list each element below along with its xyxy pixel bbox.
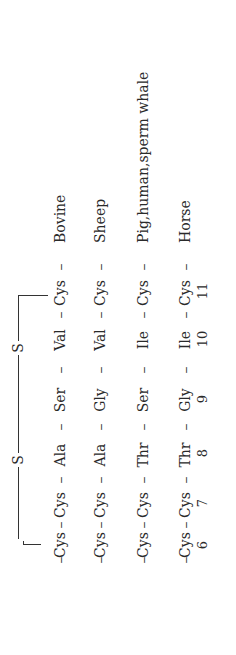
bond-dash: – bbox=[175, 264, 195, 271]
bond-dash: – bbox=[175, 367, 195, 374]
bond-dash: – bbox=[50, 367, 70, 374]
bridge-s-s-line-left bbox=[18, 467, 19, 539]
bridge-s-s-line-mid bbox=[18, 355, 19, 453]
residue-11: Cys bbox=[50, 280, 70, 306]
residue-10: Ile bbox=[175, 331, 195, 349]
residue-9: Ser bbox=[133, 388, 153, 413]
residue-10: Ile bbox=[133, 331, 153, 349]
bond-dash: – bbox=[50, 522, 70, 529]
residue-8: Ala bbox=[90, 444, 110, 467]
residue-10: Val bbox=[50, 329, 70, 351]
residue-10: Val bbox=[90, 329, 110, 351]
position-number: 8 bbox=[193, 449, 213, 457]
sequence-row-horse: – Cys – Cys – Thr – Gly – Ile – Cys – Ho… bbox=[175, 0, 195, 655]
bond-dash: – bbox=[133, 522, 153, 529]
bond-dash: – bbox=[175, 477, 195, 484]
bond-dash: – bbox=[50, 312, 70, 319]
bond-dash: – bbox=[90, 522, 110, 529]
bond-dash: – bbox=[133, 424, 153, 431]
position-number: 9 bbox=[193, 395, 213, 403]
species-label: Bovine bbox=[50, 195, 70, 243]
sequence-row-pig-human-sperm-whale: – Cys – Cys – Thr – Ser – Ile – Cys – Pi… bbox=[133, 0, 153, 655]
bond-dash: – bbox=[90, 264, 110, 271]
bond-dash: – bbox=[133, 477, 153, 484]
bond-dash: – bbox=[50, 477, 70, 484]
insulin-sequence-diagram: S S – Cys – Cys – Ala – Ser – Val – Cys … bbox=[0, 0, 236, 655]
residue-7: Cys bbox=[175, 492, 195, 518]
bond-dash: – bbox=[175, 312, 195, 319]
species-label: Pig,human,sperm whale bbox=[133, 72, 153, 243]
sulfur-left: S bbox=[8, 455, 28, 465]
residue-6: Cys bbox=[90, 532, 110, 558]
residue-7: Cys bbox=[50, 492, 70, 518]
residue-9: Gly bbox=[90, 388, 110, 412]
residue-7: Cys bbox=[133, 492, 153, 518]
residue-6: Cys bbox=[175, 532, 195, 558]
bridge-right-vertical bbox=[18, 295, 48, 296]
position-number: 10 bbox=[193, 331, 213, 348]
bridge-s-s-line-right bbox=[18, 296, 19, 341]
bond-dash: – bbox=[133, 264, 153, 271]
bond-dash: – bbox=[50, 264, 70, 271]
residue-11: Cys bbox=[133, 280, 153, 306]
bond-dash: – bbox=[90, 367, 110, 374]
sulfur-right: S bbox=[8, 343, 28, 353]
residue-8: Ala bbox=[50, 444, 70, 467]
residue-8: Thr bbox=[133, 442, 153, 467]
bond-dash: – bbox=[133, 312, 153, 319]
position-number: 6 bbox=[193, 541, 213, 549]
bridge-left-vertical bbox=[23, 544, 41, 545]
bond-dash: – bbox=[175, 424, 195, 431]
bond-dash: – bbox=[175, 522, 195, 529]
bond-dash: – bbox=[90, 312, 110, 319]
sequence-row-bovine: – Cys – Cys – Ala – Ser – Val – Cys – Bo… bbox=[50, 0, 70, 655]
bond-dash: – bbox=[90, 424, 110, 431]
bridge-left-horizontal bbox=[23, 541, 24, 545]
bond-dash: – bbox=[90, 477, 110, 484]
residue-6: Cys bbox=[133, 532, 153, 558]
residue-6: Cys bbox=[50, 532, 70, 558]
position-number: 7 bbox=[193, 499, 213, 507]
position-numbers: 6 7 8 9 10 11 bbox=[193, 0, 213, 655]
residue-9: Gly bbox=[175, 388, 195, 412]
bond-dash: – bbox=[133, 367, 153, 374]
species-label: Sheep bbox=[90, 199, 110, 243]
residue-7: Cys bbox=[90, 492, 110, 518]
residue-9: Ser bbox=[50, 388, 70, 413]
residue-11: Cys bbox=[90, 280, 110, 306]
residue-8: Thr bbox=[175, 442, 195, 467]
bond-dash: – bbox=[50, 424, 70, 431]
species-label: Horse bbox=[175, 200, 195, 243]
residue-11: Cys bbox=[175, 280, 195, 306]
position-number: 11 bbox=[193, 283, 213, 300]
sequence-row-sheep: – Cys – Cys – Ala – Gly – Val – Cys – Sh… bbox=[90, 0, 110, 655]
